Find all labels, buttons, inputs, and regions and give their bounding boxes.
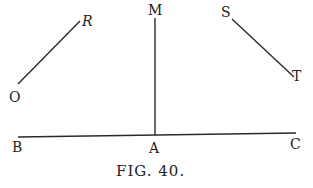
label-O: O xyxy=(9,89,20,105)
label-C: C xyxy=(290,136,301,152)
geometry-figure: O R M S T B A C FIG. 40. xyxy=(0,0,313,188)
segment-BC xyxy=(18,133,296,137)
label-R: R xyxy=(81,13,93,29)
label-S: S xyxy=(221,4,231,20)
label-M: M xyxy=(148,2,162,18)
label-A: A xyxy=(148,140,160,156)
segment-ST xyxy=(232,19,294,77)
segment-OR xyxy=(18,21,80,84)
label-B: B xyxy=(12,139,22,155)
figure-caption: FIG. 40. xyxy=(116,162,185,180)
label-T: T xyxy=(292,68,302,84)
